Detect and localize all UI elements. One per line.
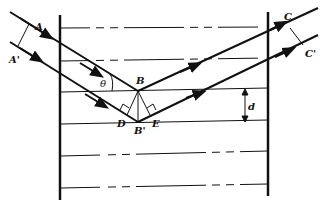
label-B-prime: B' [133,125,146,136]
label-D: D [116,118,126,129]
bragg-diagram: A A' θ B D B' E d C C' [0,0,329,208]
label-theta: θ [100,78,106,89]
label-A: A [34,21,43,32]
diagram-canvas: A A' θ B D B' E d C C' [0,0,329,208]
exit-wavefront [290,28,303,45]
label-d: d [248,101,255,112]
label-B: B [135,75,144,86]
incident-wavefront [18,24,29,46]
label-C-prime: C' [305,48,316,59]
label-E: E [151,118,160,129]
reflected-rays [138,8,318,122]
label-C: C [284,11,292,22]
incident-rays [10,12,138,122]
theta-arc [110,74,113,91]
crystal-planes [60,27,268,188]
label-A-prime: A' [8,54,20,65]
